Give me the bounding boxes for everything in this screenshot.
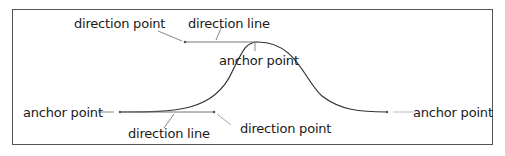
top-direction-point-leader [158,31,182,41]
right-anchor-point [386,111,389,114]
left-anchor-point-label: anchor point [23,105,103,120]
bottom-direction-line-label: direction line [128,126,210,141]
bottom-direction-point-leader [217,114,231,125]
top-direction-point-label: direction point [74,16,165,31]
top-direction-point [184,41,187,44]
left-anchor-point [119,111,122,114]
bottom-direction-point [213,111,216,114]
top-direction-line-label: direction line [188,16,270,31]
top-anchor-point-label: anchor point [219,53,299,68]
bottom-direction-point-label: direction point [240,121,331,136]
right-anchor-point-label: anchor point [413,105,493,120]
